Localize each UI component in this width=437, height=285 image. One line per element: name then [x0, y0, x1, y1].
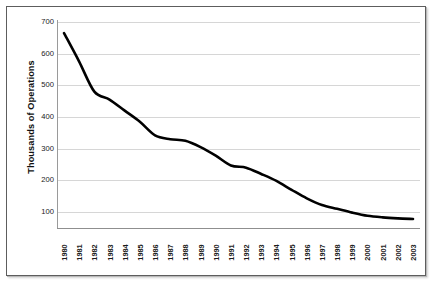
x-tick-label: 1994: [270, 232, 282, 278]
x-axis-tick-labels: 1980198119821983198419851986198719881989…: [57, 232, 420, 282]
x-tick-label: 1995: [286, 232, 298, 278]
x-tick-label: 1980: [58, 232, 70, 278]
x-tick-label: 1989: [195, 232, 207, 278]
x-tick-label: 1985: [134, 232, 146, 278]
y-tick-label: 100: [14, 208, 54, 216]
gridline-100: [57, 212, 420, 213]
x-axis-line: [57, 228, 420, 229]
x-tick-label: 1981: [73, 232, 85, 278]
y-tick-label: 400: [14, 113, 54, 121]
y-tick-label: 700: [14, 18, 54, 26]
x-tick-label: 1990: [210, 232, 222, 278]
x-tick-label: 1993: [255, 232, 267, 278]
x-tick-label: 2001: [377, 232, 389, 278]
data-series-line: [57, 22, 420, 212]
x-tick-label: 1988: [179, 232, 191, 278]
y-axis-tick-labels: 700600500400300200100: [10, 0, 54, 240]
x-tick-label: 1986: [149, 232, 161, 278]
y-tick-label: 500: [14, 81, 54, 89]
x-tick-label: 1987: [164, 232, 176, 278]
x-tick-label: 1999: [346, 232, 358, 278]
x-tick-label: 1984: [119, 232, 131, 278]
chart-figure: Thousands of Operations 7006005004003002…: [0, 0, 437, 285]
x-tick-label: 2003: [407, 232, 419, 278]
x-tick-label: 1992: [240, 232, 252, 278]
series-path: [64, 33, 413, 219]
y-tick-label: 200: [14, 176, 54, 184]
x-tick-label: 1983: [104, 232, 116, 278]
y-tick-label: 300: [14, 145, 54, 153]
x-tick-label: 2000: [361, 232, 373, 278]
x-tick-label: 1991: [225, 232, 237, 278]
y-tick-label: 600: [14, 50, 54, 58]
x-tick-label: 1982: [88, 232, 100, 278]
x-tick-label: 1998: [331, 232, 343, 278]
x-tick-label: 1997: [316, 232, 328, 278]
x-tick-label: 2002: [392, 232, 404, 278]
x-tick-label: 1996: [301, 232, 313, 278]
